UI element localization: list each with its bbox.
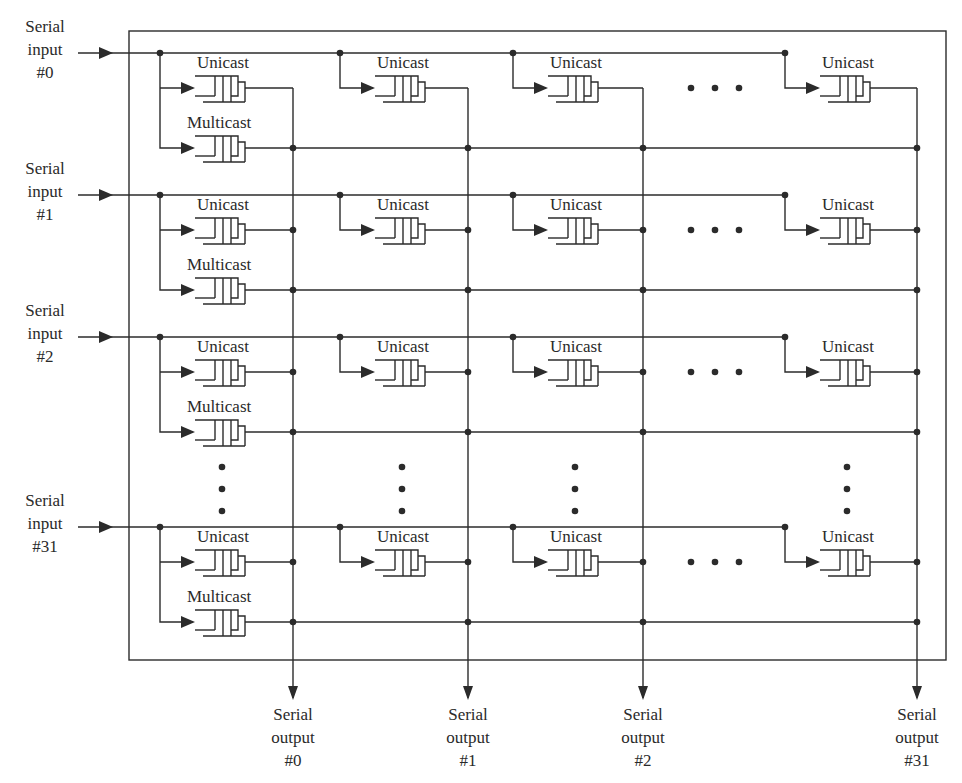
input-label: Serial	[25, 491, 65, 510]
vertical-ellipsis-dot	[399, 486, 406, 493]
ellipsis-dot	[712, 559, 719, 566]
queue-icon	[548, 218, 598, 244]
arrow-right-icon	[181, 142, 195, 154]
vertical-ellipsis-dot	[572, 486, 579, 493]
junction-dot	[640, 227, 647, 234]
diagram-canvas: Serialoutput#0Serialoutput#1Serialoutput…	[0, 0, 962, 783]
junction-dot	[290, 559, 297, 566]
queue-icon	[195, 136, 245, 162]
arrow-right-icon	[361, 366, 375, 378]
multicast-label: Multicast	[187, 587, 251, 606]
junction-dot	[914, 559, 921, 566]
junction-dot	[465, 429, 472, 436]
junction-dot	[914, 145, 921, 152]
queue-icon	[195, 550, 245, 576]
serial-input-row-in1: Serialinput#1UnicastUnicastUnicastUnicas…	[25, 159, 920, 304]
queue-cell	[238, 284, 245, 304]
unicast-label: Unicast	[377, 195, 429, 214]
junction-dot	[914, 619, 921, 626]
arrow-down-icon	[463, 686, 473, 700]
queue-cell	[863, 366, 870, 386]
ellipsis-dot	[736, 369, 743, 376]
queue-icon	[195, 76, 245, 102]
unicast-label: Unicast	[550, 53, 602, 72]
junction-dot	[465, 145, 472, 152]
unicast-label: Unicast	[377, 53, 429, 72]
junction-dot	[290, 227, 297, 234]
unicast-label: Unicast	[822, 527, 874, 546]
arrow-right-icon	[806, 556, 820, 568]
input-label: #1	[37, 205, 54, 224]
queue-cell	[863, 82, 870, 102]
ellipsis-dot	[736, 85, 743, 92]
ellipsis-dot	[736, 559, 743, 566]
arrow-right-icon	[534, 366, 548, 378]
queue-cell	[418, 224, 425, 244]
branch-wire	[513, 195, 546, 230]
queue-icon	[820, 550, 870, 576]
branch-wire	[160, 527, 193, 622]
input-label: Serial	[25, 159, 65, 178]
branch-wire	[340, 195, 373, 230]
unicast-label: Unicast	[377, 337, 429, 356]
arrow-right-icon	[361, 82, 375, 94]
arrow-right-icon	[806, 366, 820, 378]
vertical-ellipsis-dot	[844, 486, 851, 493]
queue-icon	[375, 218, 425, 244]
junction-dot	[640, 369, 647, 376]
arrow-right-icon	[99, 331, 113, 343]
branch-wire	[340, 337, 373, 372]
output-label: #2	[635, 751, 652, 770]
queue-cell	[238, 82, 245, 102]
queue-cell	[238, 616, 245, 636]
vertical-ellipsis-dot	[219, 508, 226, 515]
junction-dot	[914, 287, 921, 294]
branch-wire	[160, 195, 193, 290]
branch-wire	[160, 337, 193, 432]
queue-cell	[591, 366, 598, 386]
junction-dot	[640, 559, 647, 566]
output-label: Serial	[623, 705, 663, 724]
queue-cell	[238, 366, 245, 386]
branch-wire	[513, 53, 546, 88]
queue-cell	[238, 556, 245, 576]
branch-wire	[785, 337, 818, 372]
queue-icon	[195, 420, 245, 446]
vertical-ellipsis-dot	[844, 508, 851, 515]
junction-dot	[290, 369, 297, 376]
input-label: input	[28, 40, 63, 59]
unicast-label: Unicast	[197, 337, 249, 356]
junction-dot	[640, 429, 647, 436]
junction-dot	[640, 145, 647, 152]
arrow-right-icon	[361, 224, 375, 236]
arrow-right-icon	[181, 224, 195, 236]
queue-icon	[195, 610, 245, 636]
ellipsis-dot	[712, 85, 719, 92]
queue-cell	[863, 556, 870, 576]
unicast-label: Unicast	[822, 53, 874, 72]
junction-dot	[465, 619, 472, 626]
junction-dot	[465, 369, 472, 376]
output-label: output	[271, 728, 315, 747]
queue-icon	[375, 76, 425, 102]
vertical-ellipsis-dot	[572, 508, 579, 515]
ellipsis-dot	[688, 227, 695, 234]
branch-wire	[785, 527, 818, 562]
multicast-label: Multicast	[187, 397, 251, 416]
junction-dot	[640, 619, 647, 626]
branch-wire	[513, 527, 546, 562]
queue-icon	[820, 76, 870, 102]
queue-icon	[375, 360, 425, 386]
queue-cell	[418, 82, 425, 102]
arrow-right-icon	[99, 47, 113, 59]
unicast-label: Unicast	[197, 195, 249, 214]
queue-icon	[195, 278, 245, 304]
input-label: Serial	[25, 301, 65, 320]
unicast-label: Unicast	[550, 195, 602, 214]
queue-cell	[238, 142, 245, 162]
unicast-label: Unicast	[822, 337, 874, 356]
input-label: input	[28, 514, 63, 533]
queue-icon	[195, 218, 245, 244]
branch-wire	[340, 527, 373, 562]
queue-cell	[863, 224, 870, 244]
